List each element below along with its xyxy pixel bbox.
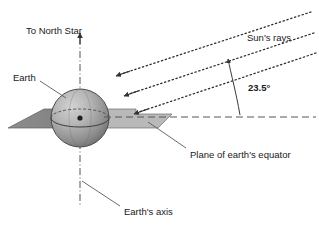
earth-center-dot xyxy=(77,115,82,120)
suns-rays-group xyxy=(116,12,316,114)
label-earth: Earth xyxy=(13,72,36,83)
label-plane-of-earths-equator: Plane of earth's equator xyxy=(190,149,291,160)
label-suns-rays: Sun's rays xyxy=(247,32,291,43)
equator-plane-label-leader xyxy=(148,122,186,148)
label-earths-axis: Earth's axis xyxy=(124,206,173,217)
sun-ray-2-arrowhead xyxy=(124,91,138,96)
diagram-canvas: To North Star Earth Sun's rays 23.5° Pla… xyxy=(0,0,319,228)
label-tilt-angle: 23.5° xyxy=(248,82,270,93)
earth-label-leader xyxy=(40,81,66,98)
tilt-angle-arc xyxy=(228,59,240,115)
label-to-north-star: To North Star xyxy=(26,25,82,36)
earth-axis-label-leader xyxy=(82,181,120,206)
sun-ray-1-arrowhead xyxy=(116,71,130,76)
earth-sphere-group xyxy=(51,89,109,147)
earth-tilt-diagram: To North Star Earth Sun's rays 23.5° Pla… xyxy=(0,0,319,228)
